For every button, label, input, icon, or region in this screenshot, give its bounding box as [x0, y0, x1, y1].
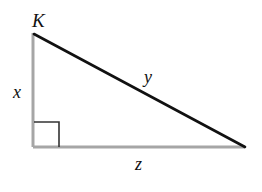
right-angle-marker [34, 122, 59, 147]
triangle-svg: K x y z [0, 0, 262, 192]
side-z-label: z [134, 154, 142, 174]
side-y-label: y [142, 67, 152, 87]
side-x-label: x [12, 82, 21, 102]
triangle-diagram: K x y z [0, 0, 262, 192]
vertex-k-label: K [31, 10, 46, 31]
side-y-hypotenuse [34, 34, 245, 147]
